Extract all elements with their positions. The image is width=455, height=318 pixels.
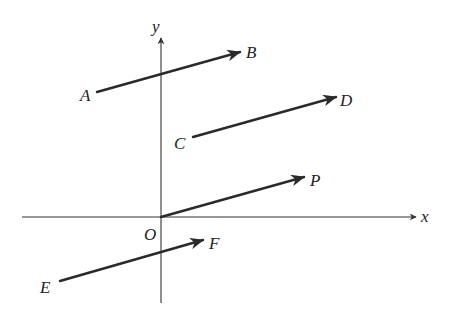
vector-ab [97,52,240,92]
point-d-label: D [339,91,353,110]
vector-diagram: x y O A B C D P E F [0,0,455,318]
vector-op [161,177,304,217]
vector-cd [193,97,336,137]
origin-label: O [144,225,156,244]
point-p-label: P [309,171,320,190]
x-axis-label: x [420,207,429,226]
point-f-label: F [208,234,220,253]
y-axis-label: y [150,17,160,36]
point-c-label: C [174,134,186,153]
point-b-label: B [246,43,257,62]
vector-ef [60,240,203,281]
point-e-label: E [39,278,51,297]
point-a-label: A [79,86,91,105]
